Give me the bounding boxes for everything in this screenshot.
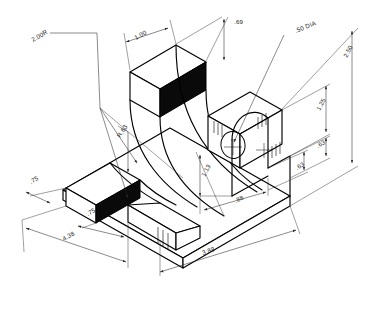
part-solid: [63, 45, 290, 268]
leader-radius-note: [50, 33, 100, 108]
ext-438-a: [22, 220, 24, 252]
dim-left-upper: [26, 192, 50, 203]
ext-top-depth-a: [206, 17, 228, 61]
ext-75a-b: [22, 206, 66, 220]
label-top-width: 1.00: [133, 28, 148, 41]
label-left-upper: .75: [28, 174, 40, 185]
ext-388-b: [290, 206, 300, 234]
ext-top-depth-b: [176, 17, 222, 44]
ext-63a-a: [290, 136, 330, 156]
drawing-canvas: 2.00R 1.00 .69 .50 DIA 2.50 1.25 .63 .63…: [0, 0, 378, 310]
label-radius-note: 2.00R: [30, 28, 49, 43]
dim-base-left: [26, 228, 126, 262]
label-right-upper: 1.25: [315, 97, 327, 112]
label-right-mid: .63: [315, 138, 327, 149]
ext-height-bot: [290, 166, 358, 206]
ext-top-width-b: [170, 20, 176, 44]
label-base-left: 4.38: [61, 229, 76, 242]
label-hole-dia-note: .50 DIA: [294, 19, 318, 34]
label-top-depth: .69: [234, 18, 244, 25]
ext-75a-a: [30, 188, 66, 196]
ext-63b-b: [268, 172, 308, 190]
isometric-technical-drawing: 2.00R 1.00 .69 .50 DIA 2.50 1.25 .63 .63…: [0, 0, 378, 310]
ext-top-width-a: [124, 33, 130, 70]
